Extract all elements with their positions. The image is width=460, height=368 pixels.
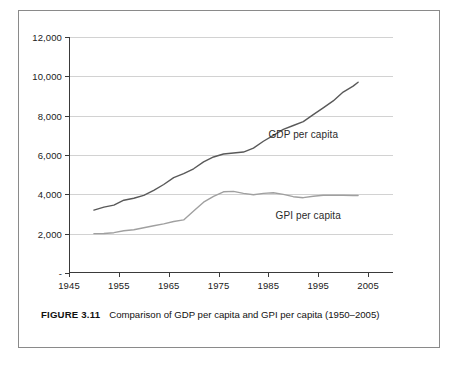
x-tick-label: 1975 bbox=[208, 280, 230, 291]
x-tick-label: 1965 bbox=[158, 280, 180, 291]
x-tick-label: 1985 bbox=[258, 280, 280, 291]
figure-caption: FIGURE 3.11Comparison of GDP per capita … bbox=[41, 309, 431, 321]
y-tick-label: 2,000 bbox=[38, 228, 62, 239]
plot-area: -2,0004,0006,0008,00010,00012,000 194519… bbox=[69, 37, 393, 273]
x-tick-label: 1995 bbox=[307, 280, 329, 291]
y-tick-label: 10,000 bbox=[32, 71, 62, 82]
x-tick-label: 1945 bbox=[58, 280, 80, 291]
y-tick-label: - bbox=[59, 268, 62, 279]
y-tick-label: 6,000 bbox=[38, 150, 62, 161]
figure-caption-label: FIGURE 3.11 bbox=[41, 309, 100, 320]
y-tick-label: 8,000 bbox=[38, 110, 62, 121]
x-tick-label: 2005 bbox=[357, 280, 379, 291]
series-label: GPI per capita bbox=[276, 209, 341, 220]
y-tick-label: 4,000 bbox=[38, 189, 62, 200]
y-tick-label: 12,000 bbox=[32, 32, 62, 43]
x-tick-label: 1955 bbox=[108, 280, 130, 291]
figure-caption-text: Comparison of GDP per capita and GPI per… bbox=[109, 309, 379, 320]
series-label: GDP per capita bbox=[268, 129, 338, 140]
series-line bbox=[94, 82, 358, 210]
series-layer bbox=[69, 37, 393, 273]
chart: -2,0004,0006,0008,00010,00012,000 194519… bbox=[19, 11, 441, 296]
figure-frame: -2,0004,0006,0008,00010,00012,000 194519… bbox=[18, 10, 440, 348]
